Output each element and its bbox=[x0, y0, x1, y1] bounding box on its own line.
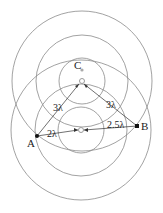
source-markers bbox=[79, 68, 85, 132]
point-a-dot bbox=[35, 134, 39, 138]
point-b-dot bbox=[135, 124, 139, 128]
label-a-s1: 3λ bbox=[53, 103, 63, 113]
source2-icon bbox=[79, 128, 84, 133]
label-b-s2: 2.5λ bbox=[107, 120, 124, 130]
interference-diagram bbox=[0, 0, 163, 213]
point-c-label: C bbox=[74, 60, 81, 71]
point-a-label: A bbox=[27, 138, 35, 149]
label-b-s1: 3λ bbox=[106, 100, 116, 110]
label-a-s2: 2λ bbox=[47, 129, 57, 139]
arrowheads bbox=[74, 84, 88, 132]
point-b-label: B bbox=[141, 121, 148, 132]
source1-icon bbox=[80, 79, 85, 84]
